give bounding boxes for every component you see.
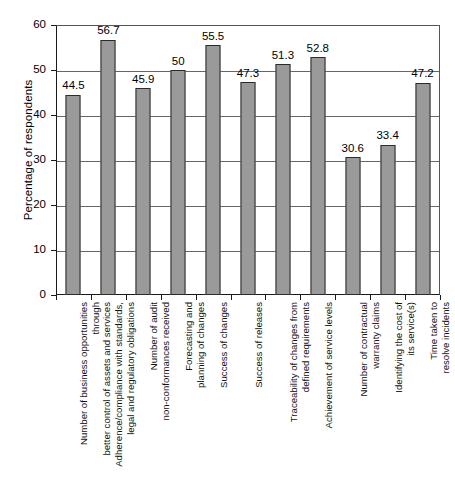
x-category-label-line: resolve incidents <box>439 302 451 477</box>
bar <box>66 95 81 295</box>
bar-group: 30.6 <box>335 25 370 295</box>
y-tick-label: 0 <box>0 289 46 301</box>
bar <box>136 88 151 295</box>
bar <box>206 45 221 295</box>
bar <box>310 57 325 295</box>
bar-group: 56.7 <box>91 25 126 295</box>
x-category-label: Forecasting andplanning of changes <box>183 302 206 477</box>
bar-chart: Percentage of respondents 0102030405060 … <box>0 0 455 477</box>
bar-group: 33.4 <box>370 25 405 295</box>
x-tick-mark <box>405 295 406 300</box>
x-category-label: Number of contractualwarranty claims <box>358 302 381 477</box>
bar-value-label: 55.5 <box>202 31 224 43</box>
bar-group: 47.2 <box>405 25 440 295</box>
x-category-label-line: Traceability of changes from <box>288 302 300 477</box>
x-tick-mark <box>440 295 441 300</box>
x-category-label: Achievement of service levels <box>323 302 335 477</box>
x-axis-ticks <box>56 295 440 301</box>
bar-value-label: 30.6 <box>342 143 364 155</box>
x-category-label-line: Identifying the cost of <box>393 302 405 477</box>
bar-group: 55.5 <box>196 25 231 295</box>
x-category-label: Number of business opportunities through… <box>78 302 113 477</box>
x-tick-mark <box>370 295 371 300</box>
y-tick-label: 20 <box>0 199 46 211</box>
x-tick-mark <box>126 295 127 300</box>
x-category-label: Success of releases <box>253 302 265 477</box>
x-category-label: Time taken toresolve incidents <box>428 302 451 477</box>
bar-value-label: 52.8 <box>307 43 329 55</box>
bar <box>275 64 290 295</box>
x-tick-mark <box>161 295 162 300</box>
x-category-label-line: Success of releases <box>253 302 265 477</box>
bar <box>345 157 360 295</box>
x-axis-category-labels: Number of business opportunities through… <box>56 302 440 477</box>
bar-value-label: 56.7 <box>97 25 119 37</box>
bar-group: 45.9 <box>126 25 161 295</box>
y-tick-label: 40 <box>0 109 46 121</box>
y-tick-label: 10 <box>0 244 46 256</box>
x-category-label-line: Forecasting and <box>183 302 195 477</box>
x-tick-mark <box>231 295 232 300</box>
x-tick-mark <box>196 295 197 300</box>
x-category-label-line: Adherence/compliance with standards, <box>113 302 125 477</box>
x-category-label: Identifying the cost ofits service(s) <box>393 302 416 477</box>
bar <box>415 83 430 295</box>
y-tick-label: 60 <box>0 19 46 31</box>
x-category-label: Traceability of changes fromdefined requ… <box>288 302 311 477</box>
bar-value-label: 45.9 <box>132 74 154 86</box>
x-category-label-line: Number of contractual <box>358 302 370 477</box>
bar <box>171 70 186 295</box>
x-tick-mark <box>335 295 336 300</box>
bar <box>101 40 116 295</box>
bar <box>240 82 255 295</box>
x-category-label-line: its service(s) <box>404 302 416 477</box>
bar-value-label: 33.4 <box>376 130 398 142</box>
x-category-label-line: better control of assets and services <box>101 302 113 477</box>
bar-group: 44.5 <box>56 25 91 295</box>
bar-group: 47.3 <box>231 25 266 295</box>
x-tick-mark <box>265 295 266 300</box>
x-category-label-line: Number of audit <box>148 302 160 477</box>
x-category-label-line: defined requirements <box>299 302 311 477</box>
y-axis-tick-labels: 0102030405060 <box>0 0 56 477</box>
x-category-label-line: Success of changes <box>218 302 230 477</box>
bar-group: 50 <box>161 25 196 295</box>
y-tick-label: 50 <box>0 64 46 76</box>
x-category-label-line: Achievement of service levels <box>323 302 335 477</box>
x-tick-mark <box>91 295 92 300</box>
x-category-label-line: warranty claims <box>369 302 381 477</box>
x-category-label-line: planning of changes <box>195 302 207 477</box>
y-tick-label: 30 <box>0 154 46 166</box>
x-category-label-line: Time taken to <box>428 302 440 477</box>
x-category-label: Number of auditnon-conformances received <box>148 302 171 477</box>
bar-group: 52.8 <box>300 25 335 295</box>
bar-value-label: 44.5 <box>62 80 84 92</box>
bar-value-label: 50 <box>172 56 185 68</box>
x-category-label: Adherence/compliance with standards,lega… <box>113 302 136 477</box>
bar <box>380 145 395 295</box>
x-category-label: Success of changes <box>218 302 230 477</box>
x-tick-mark <box>56 295 57 300</box>
x-category-label-line: non-conformances received <box>160 302 172 477</box>
x-tick-mark <box>300 295 301 300</box>
bar-value-label: 51.3 <box>272 50 294 62</box>
bar-value-label: 47.3 <box>237 68 259 80</box>
bars-layer: 44.556.745.95055.547.351.352.830.633.447… <box>56 25 440 295</box>
x-category-label-line: legal and regulatory obligations <box>125 302 137 477</box>
x-category-label-line: Number of business opportunities through <box>78 302 101 477</box>
bar-value-label: 47.2 <box>411 68 433 80</box>
bar-group: 51.3 <box>265 25 300 295</box>
